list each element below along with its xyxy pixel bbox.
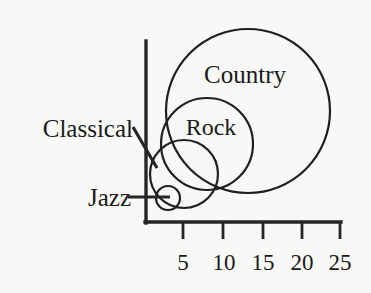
x-tick-label-15: 15	[252, 250, 275, 275]
bubble-label-classical: Classical	[43, 115, 133, 142]
x-tick-label-25: 25	[329, 250, 352, 275]
x-tick-label-20: 20	[291, 250, 314, 275]
bubble-chart-figure: 5 10 15 20 25 Country Rock Classical Jaz…	[0, 0, 371, 293]
bubble-country[interactable]	[166, 29, 330, 193]
bubble-group	[150, 29, 330, 210]
x-tick-label-5: 5	[177, 250, 189, 275]
x-tick-label-10: 10	[213, 250, 236, 275]
bubble-label-jazz: Jazz	[88, 184, 131, 211]
bubble-label-country: Country	[204, 61, 286, 88]
bubble-label-group: Country Rock Classical Jazz	[43, 61, 287, 211]
bubble-chart-canvas: 5 10 15 20 25 Country Rock Classical Jaz…	[0, 0, 371, 293]
bubble-label-rock: Rock	[186, 114, 237, 140]
bubble-rock[interactable]	[161, 98, 253, 190]
x-tick-label-group: 5 10 15 20 25	[177, 250, 351, 275]
x-tick-group	[183, 223, 340, 239]
